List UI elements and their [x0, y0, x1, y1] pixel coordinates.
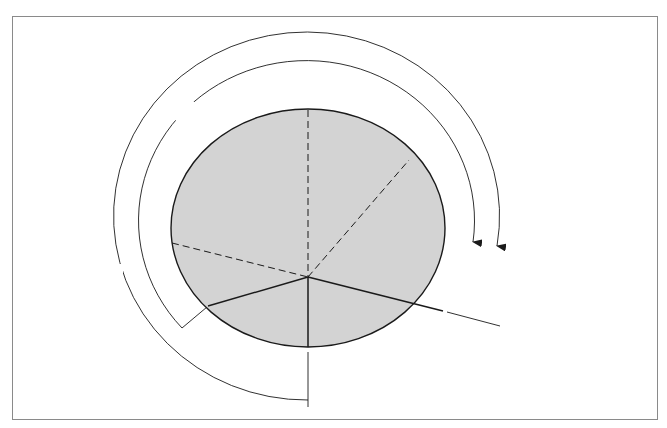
mean-sun-extension: [447, 312, 500, 326]
meridian-diagram: [0, 0, 667, 428]
lmt-start-tick: [182, 307, 207, 328]
